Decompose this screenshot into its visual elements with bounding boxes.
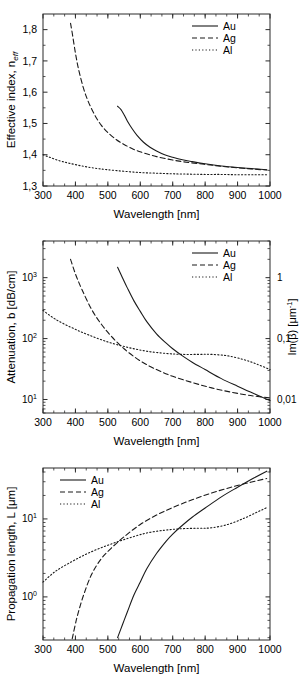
legend-label-Al: Al	[223, 271, 232, 283]
series-Au	[118, 106, 267, 169]
x-tick-label: 300	[34, 643, 52, 655]
x-tick-label: 900	[229, 189, 247, 201]
x-tick-label: 500	[99, 643, 117, 655]
series-Au	[118, 267, 270, 400]
x-tick-label: 800	[196, 416, 214, 428]
y-tick-label: 101	[22, 512, 37, 524]
x-axis-label: Wavelength [nm]	[114, 662, 200, 674]
y-tick-label: 1,3	[22, 180, 37, 192]
legend-label-Ag: Ag	[91, 486, 104, 498]
curves	[43, 23, 267, 174]
legend-label-Ag: Ag	[223, 259, 236, 271]
legend: AuAgAl	[60, 474, 104, 510]
x-axis-label: Wavelength [nm]	[114, 435, 200, 447]
x-tick-label: 700	[164, 416, 182, 428]
curves	[43, 259, 270, 400]
legend-label-Al: Al	[91, 498, 100, 510]
series-Al	[43, 508, 267, 583]
series-Ag	[71, 23, 267, 170]
series-Ag	[72, 479, 267, 639]
y-tick-label: 100	[22, 590, 37, 602]
right-y-axis-label: Im(β) [μm-1]	[285, 298, 298, 355]
x-tick-label: 400	[67, 189, 85, 201]
figure-root: 3004005006007008009001000Wavelength [nm]…	[0, 0, 305, 681]
x-tick-label: 500	[99, 416, 117, 428]
x-axis: 3004005006007008009001000	[34, 241, 282, 428]
x-tick-label: 300	[34, 416, 52, 428]
y-tick-label: 1,4	[22, 148, 37, 160]
panel-attenuation: 3004005006007008009001000Wavelength [nm]…	[0, 227, 305, 454]
legend: AuAgAl	[192, 20, 236, 56]
y-tick-label: 1,8	[22, 23, 37, 35]
x-tick-label: 400	[67, 416, 85, 428]
legend-label-Au: Au	[223, 20, 236, 32]
x-tick-label: 1000	[258, 416, 282, 428]
y-tick-label: 101	[22, 393, 37, 405]
series-Ag	[71, 259, 270, 398]
legend-label-Ag: Ag	[223, 32, 236, 44]
x-tick-label: 500	[99, 189, 117, 201]
y-tick-label: 1,6	[22, 86, 37, 98]
x-tick-label: 600	[132, 643, 150, 655]
x-axis-label: Wavelength [nm]	[114, 208, 200, 220]
plot-frame	[43, 241, 270, 413]
y-axis: 100101	[22, 472, 270, 638]
series-Au	[118, 471, 267, 638]
right-y-tick-label: 0,01	[277, 394, 297, 405]
x-tick-label: 1000	[258, 189, 282, 201]
x-tick-label: 900	[229, 643, 247, 655]
y-tick-label: 1,5	[22, 117, 37, 129]
y-tick-label: 1,7	[22, 55, 37, 67]
x-tick-label: 1000	[258, 643, 282, 655]
panel-propagation-length: 3004005006007008009001000Wavelength [nm]…	[0, 454, 305, 681]
x-tick-label: 600	[132, 416, 150, 428]
y-axis-label: Propagation length, L [μm]	[5, 487, 17, 622]
legend-label-Al: Al	[223, 44, 232, 56]
y-tick-label: 103	[22, 271, 37, 283]
x-tick-label: 700	[164, 189, 182, 201]
x-tick-label: 700	[164, 643, 182, 655]
curves	[43, 471, 267, 639]
legend-label-Au: Au	[223, 247, 236, 259]
series-Al	[43, 310, 270, 369]
panel-effective-index: 3004005006007008009001000Wavelength [nm]…	[0, 0, 305, 227]
x-tick-label: 800	[196, 189, 214, 201]
x-tick-label: 400	[67, 643, 85, 655]
y-axis-label: Effective index, neff	[5, 51, 20, 148]
legend-label-Au: Au	[91, 474, 104, 486]
x-tick-label: 800	[196, 643, 214, 655]
y-axis: 101102103	[22, 241, 48, 413]
y-axis-label: Attenuation, b [dB/cm]	[5, 270, 17, 383]
right-y-tick-label: 1	[277, 272, 283, 283]
series-Al	[43, 155, 267, 175]
y-axis: 1,31,41,51,61,71,8	[22, 23, 270, 191]
legend: AuAgAl	[192, 247, 236, 283]
plot-frame	[43, 14, 270, 186]
y-tick-label: 102	[22, 332, 37, 344]
x-tick-label: 900	[229, 416, 247, 428]
x-tick-label: 600	[132, 189, 150, 201]
